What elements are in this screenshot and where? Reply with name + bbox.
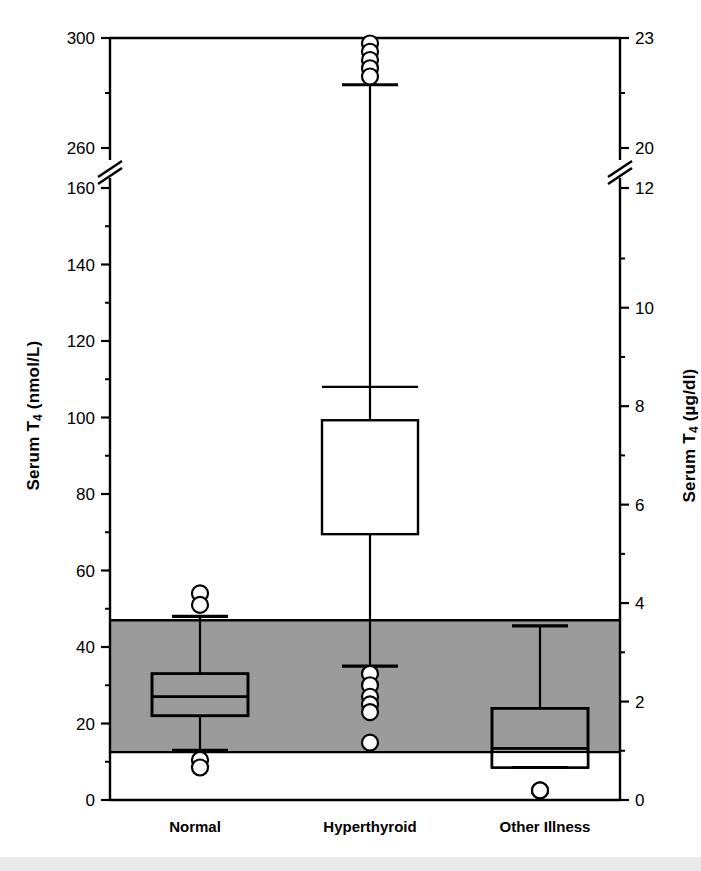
box-hyperthyroid-outlier-point bbox=[362, 69, 378, 85]
left-tick-label: 40 bbox=[76, 638, 95, 657]
left-tick-label: 120 bbox=[67, 332, 95, 351]
box-hyperthyroid-outlier-point bbox=[362, 704, 378, 720]
left-tick-label: 60 bbox=[76, 562, 95, 581]
left-tick-label: 260 bbox=[67, 139, 95, 158]
right-tick-label: 0 bbox=[635, 791, 644, 810]
left-tick-label: 0 bbox=[86, 791, 95, 810]
left-tick-label: 160 bbox=[67, 179, 95, 198]
box-hyperthyroid-outlier-point bbox=[362, 735, 378, 751]
right-tick-label: 4 bbox=[635, 594, 644, 613]
right-tick-label: 8 bbox=[635, 397, 644, 416]
box-hyperthyroid-iqr-box bbox=[322, 420, 418, 534]
page-footer-strip bbox=[0, 857, 701, 871]
right-tick-label: 10 bbox=[635, 299, 654, 318]
left-tick-label: 100 bbox=[67, 409, 95, 428]
other-illness-outlier-point bbox=[532, 782, 548, 798]
left-tick-label: 20 bbox=[76, 715, 95, 734]
box-normal-outlier-point bbox=[192, 597, 208, 613]
left-tick-label: 80 bbox=[76, 485, 95, 504]
right-tick-label: 12 bbox=[635, 179, 654, 198]
left-tick-label: 140 bbox=[67, 256, 95, 275]
other-illness-box-lower-fill bbox=[493, 753, 587, 767]
plot-canvas: 0204060801001201401602603000246810122023 bbox=[0, 0, 701, 871]
boxplot-figure: Serum T4 (nmol/L) Serum T4 (µg/dl) Norma… bbox=[0, 0, 701, 871]
right-tick-label: 20 bbox=[635, 139, 654, 158]
left-tick-label: 300 bbox=[67, 29, 95, 48]
right-tick-label: 2 bbox=[635, 693, 644, 712]
right-tick-label: 23 bbox=[635, 29, 654, 48]
right-tick-label: 6 bbox=[635, 496, 644, 515]
box-normal-outlier-point bbox=[192, 759, 208, 775]
